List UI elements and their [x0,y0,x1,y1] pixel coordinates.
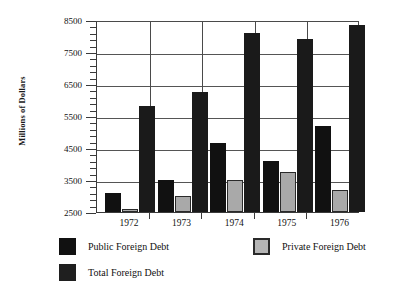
legend-swatch-icon [253,238,270,255]
y-tick-label: 6500 [64,80,82,90]
legend-label: Total Foreign Debt [88,267,164,278]
legend-item[interactable]: Private Foreign Debt [253,238,366,255]
bar-private-1976 [332,190,348,212]
y-tick-major [86,149,96,150]
plot-area [96,21,359,213]
bar-public-1972 [105,193,121,212]
y-tick-major [86,85,96,86]
y-tick-major [86,21,96,22]
x-tick-label-1973: 1973 [172,218,191,228]
y-axis: 2500350045005500650075008500 [0,0,96,214]
legend-swatch-icon [59,264,76,281]
x-tick-label-1974: 1974 [225,218,244,228]
chart-figure: Millions of Dollars 25003500450055006500… [0,0,393,291]
y-tick-label: 2500 [64,208,82,218]
legend-swatch-icon [59,238,76,255]
legend-item[interactable]: Public Foreign Debt [59,238,169,255]
x-tick-label-1972: 1972 [120,218,139,228]
y-tick-label: 3500 [64,176,82,186]
bar-total-1974 [244,33,260,212]
y-tick-major [86,213,96,214]
bar-total-1976 [349,25,365,212]
bar-total-1972 [139,106,155,212]
gridline-horizontal [97,54,358,55]
legend-item[interactable]: Total Foreign Debt [59,264,164,281]
bar-private-1972 [122,209,138,212]
chart-legend: Public Foreign DebtPrivate Foreign DebtT… [0,236,393,291]
bar-total-1975 [297,39,313,212]
x-tick-label-1975: 1975 [277,218,296,228]
y-tick-major [86,117,96,118]
x-tick [201,213,202,219]
gridline-horizontal [97,118,358,119]
bar-public-1976 [315,126,331,212]
bar-public-1975 [263,161,279,212]
x-tick-label-1976: 1976 [330,218,349,228]
y-tick-label: 4500 [64,144,82,154]
x-tick [306,213,307,219]
bar-public-1973 [158,180,174,212]
legend-label: Private Foreign Debt [282,241,366,252]
bar-private-1975 [280,172,296,212]
bar-total-1973 [192,92,208,212]
gridline-horizontal [97,86,358,87]
bar-private-1974 [227,180,243,212]
y-tick-major [86,181,96,182]
x-tick [149,213,150,219]
legend-label: Public Foreign Debt [88,241,169,252]
y-tick-label: 5500 [64,112,82,122]
bar-private-1973 [175,196,191,212]
y-tick-major [86,53,96,54]
x-tick [254,213,255,219]
y-tick-label: 8500 [64,16,82,26]
bar-public-1974 [210,143,226,212]
y-tick-label: 7500 [64,48,82,58]
